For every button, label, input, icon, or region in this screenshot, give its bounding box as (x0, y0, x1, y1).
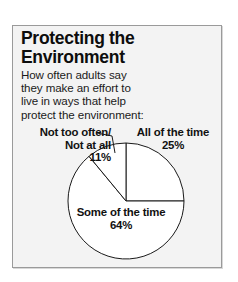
pie-label-not-too-often-line-2: Not at all (65, 139, 111, 151)
pie-label-all-of-the-time-value: 25% (127, 139, 219, 152)
pie-label-not-too-often: Not too often/ Not at all 11% (15, 126, 111, 164)
pie-label-some-of-the-time: Some of the time 64% (51, 206, 191, 231)
pie-label-not-too-often-line-1: Not too often/ (40, 126, 111, 138)
pie-label-some-of-the-time-name: Some of the time (77, 206, 166, 218)
infographic-card: Protecting the Environment How often adu… (12, 25, 222, 268)
pie-chart: Not too often/ Not at all 11% All of the… (13, 26, 223, 269)
pie-label-not-too-often-value: 11% (15, 151, 111, 164)
pie-label-all-of-the-time-name: All of the time (137, 126, 209, 138)
pie-label-all-of-the-time: All of the time 25% (127, 126, 219, 151)
pie-label-some-of-the-time-value: 64% (51, 219, 191, 232)
pie-slice (126, 143, 184, 201)
